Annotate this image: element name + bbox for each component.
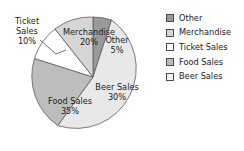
slice-pct-other: 5%	[111, 45, 124, 55]
slice-pct-beer-sales: 30%	[108, 92, 126, 102]
slice-label-merchandise: Merchandise	[63, 27, 115, 37]
legend-item-other[interactable]: Other	[166, 11, 244, 26]
chart-legend: Other Merchandise Ticket Sales Food Sale…	[166, 11, 244, 84]
legend-swatch-beer-sales-icon	[166, 73, 174, 81]
legend-swatch-other-icon	[166, 14, 174, 22]
legend-label-beer-sales: Beer Sales	[179, 72, 222, 81]
legend-label-ticket-sales: Ticket Sales	[179, 43, 228, 52]
pie-chart-figure: Other 5% Beer Sales 30% Food Sales 35% M…	[0, 0, 244, 151]
legend-label-merchandise: Merchandise	[179, 28, 231, 37]
legend-item-beer-sales[interactable]: Beer Sales	[166, 69, 244, 84]
legend-item-food-sales[interactable]: Food Sales	[166, 55, 244, 70]
slice-pct-merchandise: 20%	[80, 37, 98, 47]
legend-swatch-ticket-sales-icon	[166, 43, 174, 51]
legend-item-merchandise[interactable]: Merchandise	[166, 26, 244, 41]
legend-label-other: Other	[179, 14, 202, 23]
callout-label-ticket-sales-line2: Sales	[16, 26, 38, 36]
legend-swatch-merchandise-icon	[166, 29, 174, 37]
legend-item-ticket-sales[interactable]: Ticket Sales	[166, 40, 244, 55]
callout-label-ticket-sales-line3: 10%	[18, 36, 36, 46]
slice-label-food-sales: Food Sales	[48, 96, 92, 106]
slice-pct-food-sales: 35%	[61, 106, 79, 116]
legend-swatch-food-sales-icon	[166, 58, 174, 66]
legend-label-food-sales: Food Sales	[179, 58, 223, 67]
callout-label-ticket-sales-line1: Ticket	[14, 16, 40, 26]
slice-label-beer-sales: Beer Sales	[95, 82, 138, 92]
